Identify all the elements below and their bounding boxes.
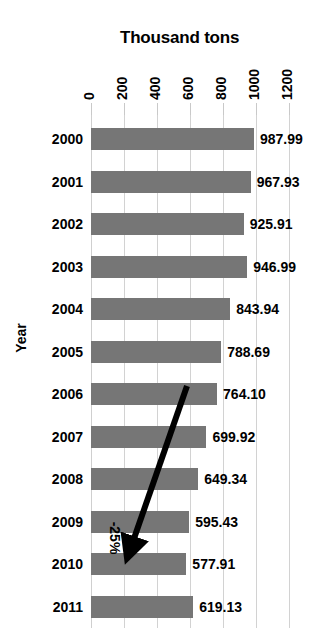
- bar-2003: [91, 256, 247, 278]
- bar-2004: [91, 298, 230, 320]
- bar-row: 2001967.93: [0, 171, 324, 193]
- category-label-2003: 2003: [0, 256, 83, 278]
- bar-row: 2004843.94: [0, 298, 324, 320]
- value-label-2011: 619.13: [199, 596, 242, 618]
- category-label-2005: 2005: [0, 341, 83, 363]
- bar-2008: [91, 468, 198, 490]
- bar-row: 2006764.10: [0, 383, 324, 405]
- x-axis-tick-labels: 020040060080010001200: [91, 55, 289, 100]
- value-label-2003: 946.99: [253, 256, 296, 278]
- value-label-2001: 967.93: [257, 171, 300, 193]
- value-label-2008: 649.34: [204, 468, 247, 490]
- bar-row: 2005788.69: [0, 341, 324, 363]
- x-tick-label-200: 200: [114, 77, 130, 100]
- category-label-2009: 2009: [0, 511, 83, 533]
- x-tick-label-1000: 1000: [246, 69, 262, 100]
- bar-2010: [91, 553, 186, 575]
- bar-row: 2010577.91: [0, 553, 324, 575]
- bar-2009: [91, 511, 189, 533]
- tick-mark-800: [223, 103, 224, 115]
- x-tick-label-400: 400: [147, 77, 163, 100]
- category-label-2011: 2011: [0, 596, 83, 618]
- tick-mark-1200: [289, 103, 290, 115]
- category-label-2004: 2004: [0, 298, 83, 320]
- value-label-2006: 764.10: [223, 383, 266, 405]
- x-tick-label-600: 600: [180, 77, 196, 100]
- tick-mark-200: [124, 103, 125, 115]
- tick-mark-600: [190, 103, 191, 115]
- bar-2000: [91, 128, 254, 150]
- tick-mark-0: [91, 103, 92, 115]
- category-label-2010: 2010: [0, 553, 83, 575]
- annotation-percent-label: -25%: [107, 510, 123, 566]
- tick-mark-1000: [256, 103, 257, 115]
- category-label-2000: 2000: [0, 128, 83, 150]
- category-label-2008: 2008: [0, 468, 83, 490]
- bar-2001: [91, 171, 251, 193]
- bar-2002: [91, 213, 244, 235]
- value-label-2005: 788.69: [227, 341, 270, 363]
- category-label-2007: 2007: [0, 426, 83, 448]
- bar-row: 2000987.99: [0, 128, 324, 150]
- bar-2011: [91, 596, 193, 618]
- category-label-2002: 2002: [0, 213, 83, 235]
- value-label-2009: 595.43: [195, 511, 238, 533]
- x-axis-tick-marks: [91, 103, 289, 115]
- chart-title: Thousand tons: [120, 28, 310, 48]
- bar-2007: [91, 426, 206, 448]
- bar-2006: [91, 383, 217, 405]
- bar-2005: [91, 341, 221, 363]
- category-label-2006: 2006: [0, 383, 83, 405]
- value-label-2000: 987.99: [260, 128, 303, 150]
- bar-row: 2002925.91: [0, 213, 324, 235]
- bar-row: 2007699.92: [0, 426, 324, 448]
- tick-mark-400: [157, 103, 158, 115]
- value-label-2004: 843.94: [236, 298, 279, 320]
- value-label-2010: 577.91: [192, 553, 235, 575]
- bar-row: 2009595.43: [0, 511, 324, 533]
- x-tick-label-0: 0: [81, 92, 97, 100]
- category-label-2001: 2001: [0, 171, 83, 193]
- value-label-2002: 925.91: [250, 213, 293, 235]
- value-label-2007: 699.92: [212, 426, 255, 448]
- bar-row: 2008649.34: [0, 468, 324, 490]
- bar-row: 2003946.99: [0, 256, 324, 278]
- x-tick-label-800: 800: [213, 77, 229, 100]
- bar-row: 2011619.13: [0, 596, 324, 618]
- bar-chart: Thousand tons Year 020040060080010001200…: [0, 0, 324, 643]
- x-tick-label-1200: 1200: [279, 69, 295, 100]
